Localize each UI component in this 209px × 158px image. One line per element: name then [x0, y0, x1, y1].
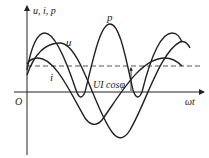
- x-axis-label: ωt: [185, 97, 195, 107]
- p-curve-label: p: [107, 12, 113, 23]
- power-waveform-diagram: u, i, p O ωt p u i UI cosφ: [0, 0, 209, 158]
- origin-label: O: [15, 97, 22, 107]
- y-axis-label: u, i, p: [33, 6, 56, 16]
- average-power-label: UI cosφ: [93, 80, 125, 90]
- i-curve-label: i: [50, 72, 53, 83]
- u-curve-label: u: [66, 37, 72, 48]
